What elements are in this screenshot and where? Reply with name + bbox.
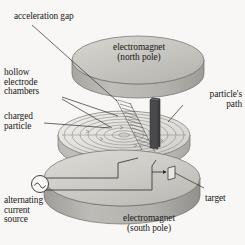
acceleration-gap-plate-face	[150, 100, 158, 149]
label-charged-particle: charged particle	[4, 112, 33, 131]
label-alternating-current-source: alternating current source	[4, 196, 43, 225]
label-acceleration-gap: acceleration gap	[14, 12, 74, 22]
label-electromagnet-south: electromagnet (south pole)	[103, 214, 195, 233]
target-flag	[168, 166, 175, 180]
label-target: target	[205, 194, 226, 204]
label-electromagnet-north: electromagnet (north pole)	[93, 43, 185, 62]
electromagnet-south-disc	[44, 150, 200, 224]
ac-source-circle	[32, 176, 49, 193]
label-particles-path: particle's path	[178, 90, 242, 109]
label-hollow-electrode-chambers: hollow electrode chambers	[4, 68, 39, 97]
leader-chambers-1	[62, 97, 118, 116]
